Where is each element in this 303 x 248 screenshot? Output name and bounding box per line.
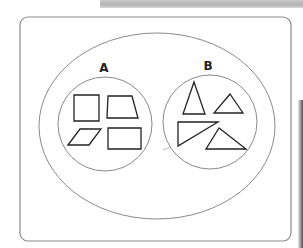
set-b-label: B bbox=[203, 59, 212, 73]
set-a-label: A bbox=[99, 61, 109, 75]
diagram-frame bbox=[20, 17, 291, 241]
set-diagram: A B bbox=[0, 0, 303, 248]
